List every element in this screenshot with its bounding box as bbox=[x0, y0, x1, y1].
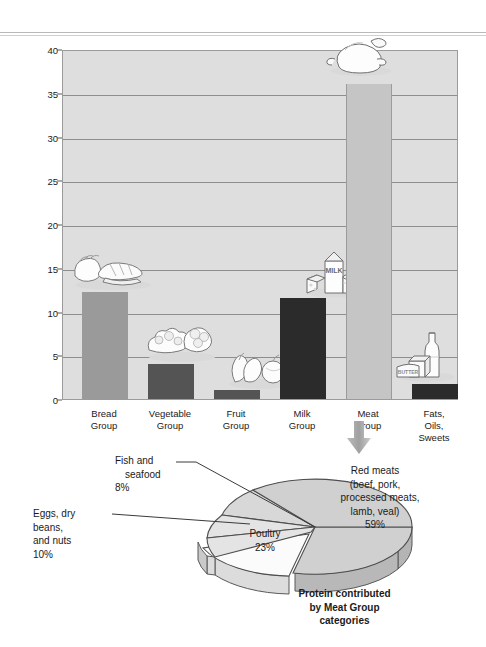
svg-text:BUTTER: BUTTER bbox=[398, 369, 419, 375]
x-axis-labels: BreadGroup VegetableGroup FruitGroup Mil… bbox=[62, 408, 458, 440]
top-divider-rule bbox=[0, 32, 486, 36]
pie-callout-fish-seafood: Fish and seafood 8% bbox=[115, 454, 185, 495]
pie-chart: Fish and seafood 8% Eggs, dry beans, and… bbox=[0, 452, 486, 647]
plot-area: MILK bbox=[62, 50, 458, 400]
roast-poultry-icon bbox=[325, 33, 397, 77]
bar-vegetable-group bbox=[148, 364, 194, 399]
down-arrow-icon bbox=[346, 421, 372, 455]
bar-chart: Grams 0 5 10 15 20 25 30 35 40 bbox=[0, 44, 486, 424]
pie-label-poultry: Poultry 23% bbox=[230, 527, 300, 554]
pie-caption: Protein contributed by Meat Group catego… bbox=[262, 587, 427, 628]
x-label-vegetable-group: VegetableGroup bbox=[149, 408, 191, 432]
bar-fats-oils-sweets bbox=[412, 384, 458, 399]
x-label-fats-oils-sweets: Fats, Oils,Sweets bbox=[418, 408, 449, 444]
x-label-milk-group: MilkGroup bbox=[289, 408, 315, 432]
bar-meat-group bbox=[346, 84, 392, 399]
pie-callout-eggs-beans-nuts: Eggs, dry beans, and nuts 10% bbox=[33, 507, 111, 561]
bread-icon bbox=[69, 250, 153, 292]
pie-label-red-meats: Red meats (beef, pork, processed meats, … bbox=[310, 464, 440, 532]
bar-milk-group bbox=[280, 298, 326, 399]
x-label-bread-group: BreadGroup bbox=[91, 408, 117, 432]
x-label-fruit-group: FruitGroup bbox=[223, 408, 249, 432]
oil-butter-icon: BUTTER bbox=[395, 327, 459, 383]
bar-fruit-group bbox=[214, 390, 260, 399]
bar-bread-group bbox=[82, 292, 128, 399]
nutrition-figure: Grams 0 5 10 15 20 25 30 35 40 bbox=[0, 0, 486, 647]
y-axis-label: Grams bbox=[0, 203, 1, 234]
